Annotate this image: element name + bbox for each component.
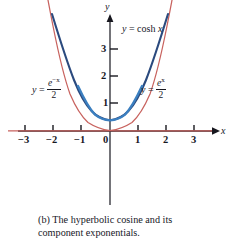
y-tick-label-2: 2 (101, 71, 106, 82)
exp-neg-fraction: e−x 2 (47, 79, 61, 101)
cosh-lhs: y (122, 23, 126, 34)
exp-neg-lhs: y (32, 84, 36, 95)
annotation-cosh: y = cosh x (122, 24, 162, 34)
cosh-argument: x (158, 23, 162, 34)
x-tick-label-neg1: −1 (74, 135, 85, 146)
x-tick-label-1: 1 (135, 135, 140, 146)
graph-plot (0, 0, 232, 205)
exp-pos-lhs: y (141, 84, 145, 95)
exp-pos-numerator: ex (156, 79, 166, 90)
cosh-equals: = (129, 23, 135, 34)
x-tick-label-0: 0 (103, 135, 108, 146)
exp-neg-exponent: −x (52, 76, 59, 84)
x-axis-label: x (221, 126, 225, 136)
y-axis-arrowhead (107, 14, 114, 22)
exp-pos-fraction: ex 2 (156, 79, 166, 101)
exp-neg-numerator: e−x (47, 79, 61, 90)
exp-neg-equals: = (39, 84, 45, 95)
x-tick-label-neg2: −2 (46, 135, 57, 146)
y-axis-ticks (110, 49, 118, 103)
x-tick-label-3: 3 (191, 135, 196, 146)
figure-caption: (b) The hyperbolic cosine and its compon… (38, 213, 216, 240)
cosh-function: cosh (137, 23, 155, 34)
annotation-exp-positive: y = ex 2 (141, 80, 166, 102)
annotation-exp-negative: y = e−x 2 (32, 80, 61, 102)
y-tick-label-3: 3 (101, 44, 106, 55)
exp-neg-denominator: 2 (47, 90, 61, 101)
exp-pos-denominator: 2 (156, 90, 166, 101)
y-axis-label: y (105, 2, 109, 12)
x-tick-label-neg3: −3 (18, 135, 29, 146)
x-axis-arrowhead (212, 127, 220, 135)
exp-pos-exponent: x (161, 76, 165, 84)
y-tick-label-1: 1 (103, 98, 108, 109)
figure-container: y x −3 −2 −1 0 1 2 3 3 2 1 y = cosh x y … (0, 0, 232, 251)
x-tick-label-2: 2 (163, 135, 168, 146)
exp-pos-equals: = (148, 84, 154, 95)
